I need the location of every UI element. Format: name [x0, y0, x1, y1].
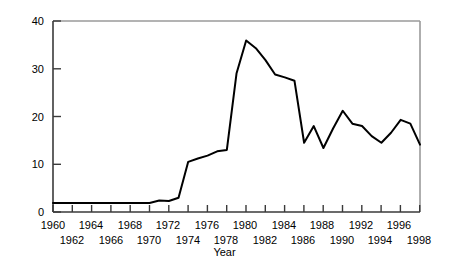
x-tick-label-1998: 1998: [399, 235, 439, 246]
x-tick-label-1992: 1992: [341, 220, 381, 231]
x-tick-label-1976: 1976: [187, 220, 227, 231]
price-line: [53, 41, 420, 203]
x-tick-label-1978: 1978: [206, 235, 246, 246]
y-ticks: [53, 21, 61, 212]
x-tick-label-1968: 1968: [110, 220, 150, 231]
y-tick-label-10: 10: [22, 159, 44, 170]
x-tick-label-1996: 1996: [379, 220, 419, 231]
x-tick-label-1960: 1960: [33, 220, 73, 231]
y-tick-label-30: 30: [22, 64, 44, 75]
x-tick-label-1974: 1974: [168, 235, 208, 246]
x-tick-label-1986: 1986: [283, 235, 323, 246]
x-axis-label: Year: [0, 246, 449, 258]
x-tick-label-1964: 1964: [71, 220, 111, 231]
x-tick-label-1994: 1994: [360, 235, 400, 246]
y-tick-label-0: 0: [22, 207, 44, 218]
x-tick-label-1990: 1990: [322, 235, 362, 246]
x-tick-label-1988: 1988: [302, 220, 342, 231]
x-tick-label-1984: 1984: [264, 220, 304, 231]
x-tick-label-1966: 1966: [91, 235, 131, 246]
x-tick-label-1982: 1982: [245, 235, 285, 246]
x-tick-label-1972: 1972: [148, 220, 188, 231]
oil-price-chart: Price (US$ per barrel) Year 40 30 20 10 …: [0, 0, 449, 270]
y-tick-label-20: 20: [22, 112, 44, 123]
y-tick-label-40: 40: [22, 16, 44, 27]
x-tick-label-1970: 1970: [129, 235, 169, 246]
x-tick-label-1962: 1962: [52, 235, 92, 246]
x-tick-label-1980: 1980: [225, 220, 265, 231]
x-ticks: [53, 205, 420, 212]
